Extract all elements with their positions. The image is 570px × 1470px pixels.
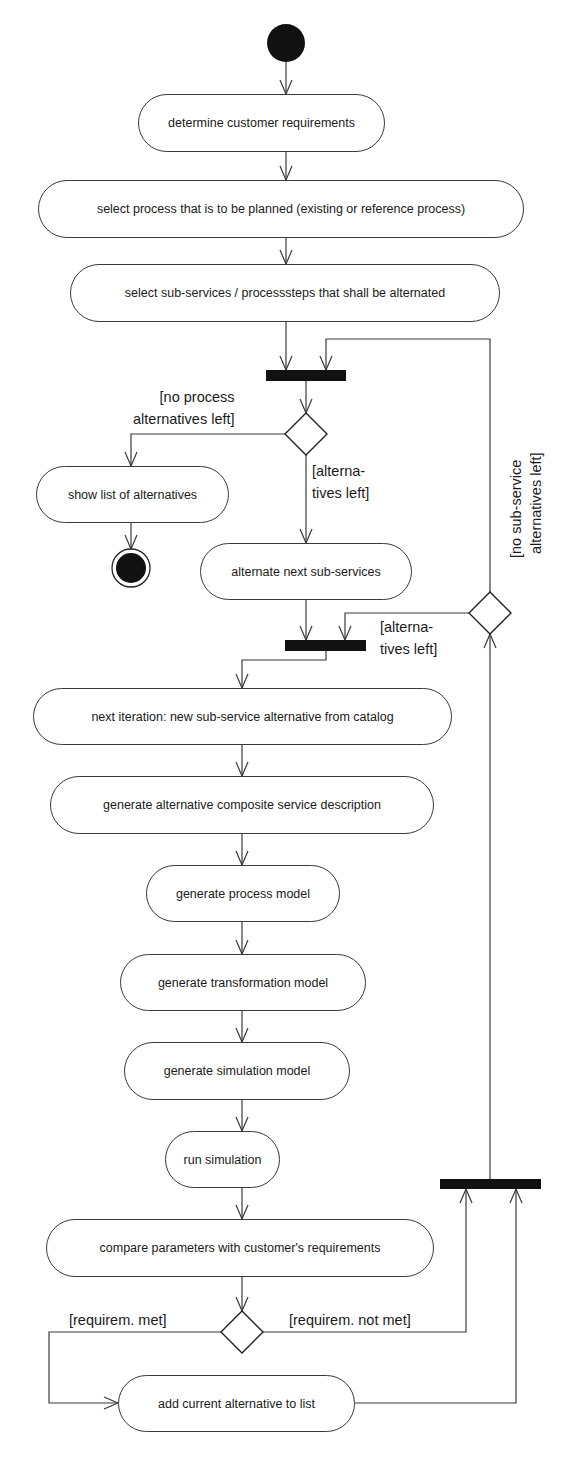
guard-line: tives left] bbox=[380, 638, 437, 660]
initial-node-icon bbox=[267, 24, 305, 62]
guard-no-sub-service-alternatives: [no sub-service alternatives left] bbox=[506, 452, 546, 558]
guard-requirements-not-met: [requirem. not met] bbox=[289, 1309, 411, 1331]
guard-line: [no sub-service bbox=[506, 452, 526, 558]
guard-line: [no process bbox=[133, 386, 235, 408]
guard-line: [alterna- bbox=[380, 616, 437, 638]
decision-node-2 bbox=[469, 592, 511, 634]
action-determine-requirements: determine customer requirements bbox=[138, 94, 385, 152]
action-alternate-next: alternate next sub-services bbox=[200, 543, 412, 600]
action-run-simulation: run simulation bbox=[165, 1131, 280, 1188]
guard-requirements-met: [requirem. met] bbox=[69, 1309, 167, 1331]
join-bar-2 bbox=[285, 640, 366, 651]
action-compare-parameters: compare parameters with customer's requi… bbox=[46, 1219, 434, 1277]
action-select-process: select process that is to be planned (ex… bbox=[38, 180, 524, 238]
guard-line: tives left] bbox=[312, 482, 369, 504]
edge-bar2-a6 bbox=[242, 651, 326, 688]
edge-decision1-a4 bbox=[131, 434, 285, 466]
decision-node-1 bbox=[285, 413, 327, 455]
action-generate-alternative: generate alternative composite service d… bbox=[50, 776, 434, 834]
guard-alternatives-left-2: [alterna- tives left] bbox=[380, 616, 437, 660]
guard-alternatives-left-1: [alterna- tives left] bbox=[312, 460, 369, 504]
join-bar-3 bbox=[440, 1179, 541, 1189]
action-next-iteration: next iteration: new sub-service alternat… bbox=[33, 688, 452, 745]
guard-line: alternatives left] bbox=[133, 408, 235, 430]
action-select-sub-services: select sub-services / processsteps that … bbox=[70, 264, 500, 322]
guard-line: alternatives left] bbox=[526, 452, 546, 558]
action-generate-simulation-model: generate simulation model bbox=[124, 1042, 350, 1100]
join-bar-1 bbox=[266, 370, 346, 381]
final-node-inner bbox=[116, 553, 146, 583]
decision-node-3 bbox=[221, 1311, 263, 1353]
action-add-current-alternative: add current alternative to list bbox=[118, 1375, 355, 1432]
action-generate-transformation-model: generate transformation model bbox=[120, 954, 366, 1011]
guard-no-process-alternatives: [no process alternatives left] bbox=[133, 386, 235, 430]
action-show-list: show list of alternatives bbox=[36, 466, 229, 523]
action-generate-process-model: generate process model bbox=[146, 865, 340, 922]
guard-line: [alterna- bbox=[312, 460, 369, 482]
